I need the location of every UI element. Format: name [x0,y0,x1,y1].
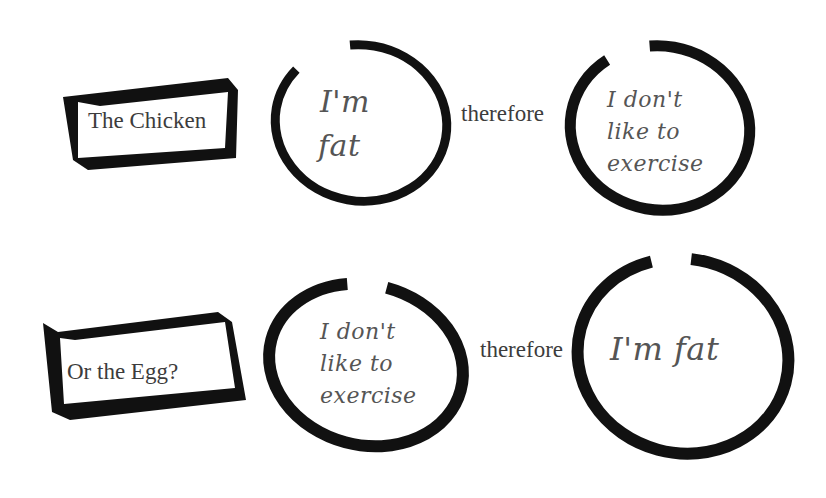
cause-line: I'm [320,80,370,124]
effect-line: exercise [607,148,704,180]
effect-line: I'm fat [610,330,719,368]
effect-line: I don't [607,84,704,116]
effect-text-2: I'm fat [610,330,719,368]
cause-line: exercise [320,380,417,412]
cause-line: like to [320,348,417,380]
label-or-the-egg: Or the Egg? [67,359,178,385]
connector-therefore-2: therefore [480,337,563,363]
brush-strokes [0,0,826,498]
connector-therefore-1: therefore [461,101,544,127]
effect-text-1: I don't like to exercise [607,84,704,180]
label-the-chicken: The Chicken [88,108,206,134]
effect-line: like to [607,116,704,148]
cause-text-2: I don't like to exercise [320,316,417,412]
cause-line: fat [318,124,370,168]
cause-text-1: I'm fat [320,80,370,168]
cause-line: I don't [320,316,417,348]
